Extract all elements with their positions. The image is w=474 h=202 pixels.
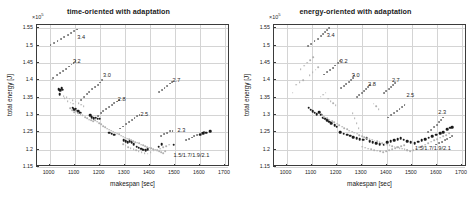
data-point — [437, 138, 439, 140]
data-point — [122, 143, 124, 145]
data-point — [292, 92, 294, 94]
x-tick — [199, 164, 200, 167]
data-point — [339, 131, 342, 134]
data-point — [400, 145, 402, 147]
data-point — [350, 79, 352, 81]
data-point — [111, 104, 113, 106]
y-tick — [273, 79, 276, 80]
gridline-horizontal — [274, 98, 465, 99]
y-tick — [36, 149, 39, 150]
data-point — [306, 62, 308, 64]
data-point — [435, 134, 438, 137]
data-point — [379, 142, 381, 144]
data-point — [188, 138, 190, 140]
data-point — [366, 137, 368, 139]
data-point — [127, 146, 129, 148]
data-point — [439, 132, 442, 135]
data-point — [162, 146, 164, 148]
x-tick-label: 1400 — [143, 169, 155, 175]
gridline-horizontal — [274, 167, 465, 168]
y-tick — [36, 62, 39, 63]
gridline-horizontal — [274, 115, 465, 116]
data-point — [358, 138, 361, 141]
data-point — [433, 126, 435, 128]
cluster-label: 3.0 — [103, 72, 111, 78]
data-point — [428, 142, 430, 144]
data-point — [383, 92, 385, 94]
data-point — [73, 30, 75, 32]
y-tick — [36, 131, 39, 132]
x-tick — [461, 164, 462, 167]
data-point — [386, 144, 388, 146]
y-tick — [36, 79, 39, 80]
data-point — [359, 134, 361, 136]
data-point — [57, 40, 59, 42]
cluster-label: 1.5/1.7/1.9/2.1 — [415, 145, 451, 151]
y-tick — [273, 45, 276, 46]
data-point — [376, 141, 378, 143]
data-point — [330, 122, 333, 125]
data-point — [401, 148, 403, 150]
data-point — [315, 69, 317, 71]
data-point — [150, 151, 152, 153]
x-tick — [99, 164, 100, 167]
data-point — [60, 38, 62, 40]
data-point — [354, 117, 356, 119]
data-point — [64, 98, 66, 100]
y-tick-label: 1.3 — [247, 111, 270, 117]
data-point — [389, 144, 391, 146]
data-point — [348, 81, 350, 83]
y-tick-label: 1.35 — [10, 94, 33, 100]
data-point — [384, 143, 386, 145]
data-point — [332, 102, 334, 104]
cluster-label: 2.7 — [392, 77, 400, 83]
data-point — [335, 104, 337, 106]
data-point — [385, 150, 387, 152]
cluster-label: 1.5/1.7/1.9/2.1 — [174, 152, 210, 158]
data-point — [53, 42, 55, 44]
data-point — [141, 151, 143, 153]
data-point — [397, 146, 399, 148]
data-point — [342, 132, 345, 135]
data-point — [427, 131, 429, 133]
data-point — [156, 149, 158, 151]
data-point — [334, 122, 336, 124]
data-point — [369, 138, 371, 140]
data-point — [125, 123, 127, 125]
cluster-label: 3.0 — [352, 72, 360, 78]
data-point — [98, 118, 101, 121]
data-point — [449, 133, 451, 135]
data-point — [63, 36, 65, 38]
data-point — [322, 33, 324, 35]
data-point — [91, 89, 93, 91]
data-point — [388, 149, 390, 151]
cluster-label: 2.7 — [172, 77, 180, 83]
x-tick-label: 1200 — [330, 169, 342, 175]
data-point — [65, 68, 67, 70]
data-point — [340, 87, 342, 89]
data-point — [329, 69, 331, 71]
data-point — [72, 99, 74, 101]
data-point — [63, 95, 65, 97]
data-point — [136, 116, 138, 118]
data-point — [309, 59, 311, 61]
data-point — [158, 91, 160, 93]
data-point — [314, 40, 316, 42]
data-point — [327, 98, 329, 100]
y-axis-title-right: total energy [J] — [243, 74, 250, 116]
y-tick-label: 1.2 — [10, 146, 33, 152]
data-point — [430, 129, 432, 131]
data-point — [358, 127, 360, 129]
data-point — [320, 96, 322, 98]
y-tick — [36, 45, 39, 46]
plot-panel-right: energy-oriented with adaptation×10510001… — [237, 0, 474, 202]
data-point — [352, 113, 354, 115]
data-point — [66, 96, 68, 98]
plot-panel-left: time-oriented with adaptation×1051000110… — [0, 0, 237, 202]
data-point — [366, 88, 368, 90]
gridline-horizontal — [37, 167, 228, 168]
y-tick — [36, 27, 39, 28]
data-point — [113, 102, 115, 104]
y-tick-label: 1.25 — [247, 128, 270, 134]
data-point — [76, 29, 78, 31]
